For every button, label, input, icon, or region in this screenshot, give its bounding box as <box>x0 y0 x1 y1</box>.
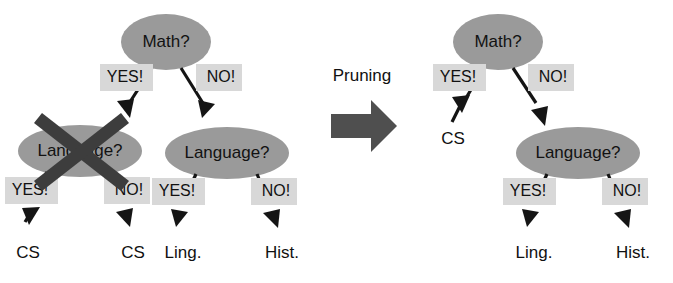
leaf-label: Hist. <box>616 243 650 262</box>
node-math-after: Math? <box>453 14 543 70</box>
leaf-label: Ling. <box>516 243 553 262</box>
after-tree: Math? YES! NO! CS Language? <box>0 0 673 283</box>
edge-arrowhead <box>531 106 548 126</box>
edge-arrowhead <box>614 209 631 228</box>
edge-label-root-yes-after: YES! <box>433 64 486 91</box>
node-label: Language? <box>535 143 620 162</box>
edge-label-root-no-after: NO! <box>528 64 574 91</box>
edge-arrowhead <box>522 209 539 227</box>
edge-label-lang-yes-after: YES! <box>503 178 556 205</box>
node-language-after: Language? <box>516 127 640 179</box>
leaf-label: CS <box>441 129 465 148</box>
node-label: Math? <box>474 32 521 51</box>
tag-label: YES! <box>440 68 476 85</box>
tag-label: YES! <box>510 182 546 199</box>
edge-label-lang-no-after: NO! <box>602 178 648 205</box>
pruning-figure: Math? YES! NO! Language? L <box>0 0 673 283</box>
tag-label: NO! <box>539 68 567 85</box>
tag-label: NO! <box>613 182 641 199</box>
